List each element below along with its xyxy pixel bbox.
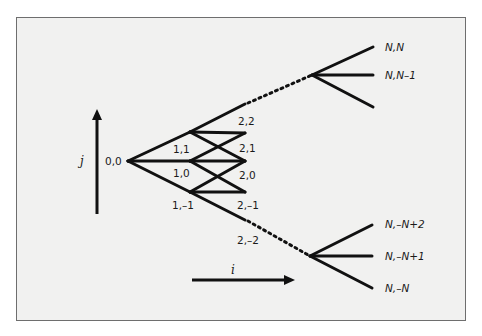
node-label-1-m1: 1,–1 (172, 199, 194, 211)
terminal-label-N-N: N,N (385, 41, 404, 53)
terminal-label-N-N-1: N,N–1 (385, 69, 416, 81)
j-axis-label: j (77, 154, 84, 168)
dotted-continuations (248, 75, 312, 256)
terminal-labels: N,N N,N–1 N,–N+2 N,–N+1 N,–N (385, 41, 425, 294)
edge-11-22 (190, 104, 245, 132)
edge-11-21 (190, 132, 245, 133)
terminal-label-N-mN: N,–N (385, 282, 409, 294)
trinomial-tree-diagram: j i 0,0 (0, 0, 482, 336)
terminal-label-N-mN-2: N,–N+2 (385, 218, 425, 230)
lower-terminal-fan (310, 225, 372, 288)
terminal-label-N-mN-1: N,–N+1 (385, 250, 425, 262)
node-label-1-0: 1,0 (173, 167, 190, 179)
i-axis-label: i (231, 263, 235, 277)
j-axis-arrow (92, 109, 102, 214)
upper-terminal-fan (312, 47, 373, 107)
node-label-2-1: 2,1 (239, 142, 256, 154)
node-label-1-1: 1,1 (173, 143, 190, 155)
dotted-upper (248, 75, 312, 103)
node-label-2-m1: 2,–1 (237, 199, 259, 211)
node-label-2-2: 2,2 (238, 115, 255, 127)
node-label-2-0: 2,0 (239, 169, 256, 181)
node-label-2-m2: 2,–2 (237, 234, 259, 246)
node-label-0-0: 0,0 (105, 155, 122, 167)
i-axis-arrow (192, 275, 295, 285)
